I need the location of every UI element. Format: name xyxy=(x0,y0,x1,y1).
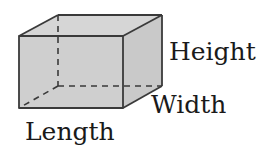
width-label: Width xyxy=(151,92,226,117)
length-label: Length xyxy=(25,119,115,144)
height-label: Height xyxy=(169,39,256,64)
front-face xyxy=(19,36,123,108)
